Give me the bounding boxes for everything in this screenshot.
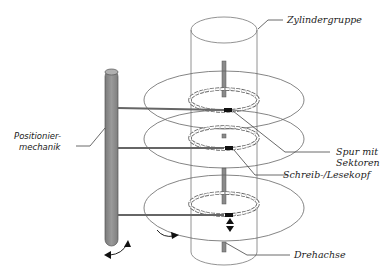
label-head: Schreib-/Lesekopf [283,169,370,181]
cylinder-top-ellipse [191,17,257,43]
platter-2 [144,110,304,168]
head-3 [225,213,233,217]
cylinder-group [191,17,257,265]
head-arms [118,108,224,215]
label-track-line2: Sektoren [336,157,380,169]
rod-top [105,69,118,75]
label-cylinder-group: Zylindergruppe [287,14,362,26]
label-positioner-line2: mechanik [19,141,60,153]
label-spindle: Drehachse [294,249,346,261]
leader-spindle [226,243,290,255]
positioner-rod [105,69,118,246]
leader-positioner [76,128,105,146]
leader-head [234,150,288,175]
head-1 [224,108,232,112]
cylinder-bottom-ellipse [191,252,257,265]
head-motion-arrow-icon [226,218,234,232]
head-2 [225,146,233,150]
leader-cylinder-group [258,20,283,29]
